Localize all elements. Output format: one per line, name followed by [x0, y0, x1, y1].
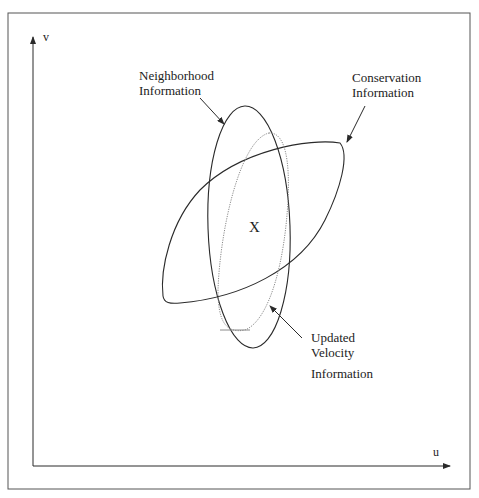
u-axis-label: u	[433, 445, 439, 460]
conservation-label-line1: Conservation	[352, 70, 421, 85]
conservation-label-line2: Information	[352, 85, 421, 100]
updated-velocity-label: Updated Velocity Information	[311, 330, 373, 381]
center-marker: X	[249, 219, 260, 236]
neighborhood-label: Neighborhood Information	[139, 68, 214, 98]
conservation-label: Conservation Information	[352, 70, 421, 100]
neighborhood-label-line1: Neighborhood	[139, 68, 214, 83]
updated-label-line3: Information	[311, 366, 373, 381]
updated-pointer-arrow	[270, 306, 302, 338]
updated-label-line2: Velocity	[311, 345, 373, 360]
v-axis-label: v	[43, 30, 49, 45]
updated-label-line1: Updated	[311, 330, 373, 345]
neighborhood-label-line2: Information	[139, 83, 214, 98]
conservation-pointer-arrow	[347, 106, 365, 142]
neighborhood-pointer-arrow	[200, 98, 224, 124]
